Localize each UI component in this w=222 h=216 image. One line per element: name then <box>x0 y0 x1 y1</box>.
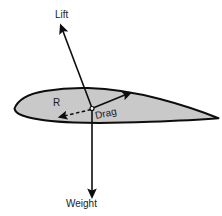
lift-label: Lift <box>55 9 69 20</box>
weight-label: Weight <box>66 198 97 209</box>
resultant-label: R <box>53 97 60 108</box>
airfoil-shape-group <box>15 88 219 123</box>
airfoil-force-diagram: Lift Weight Drag R <box>0 0 222 216</box>
force-diagram-canvas: Lift Weight Drag R <box>0 0 222 216</box>
airfoil-cross-section <box>15 88 219 123</box>
